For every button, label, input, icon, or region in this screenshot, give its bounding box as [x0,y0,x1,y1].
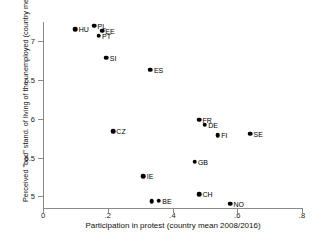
x-tick-label: .2 [98,211,118,220]
y-axis-title: Perceived "bad" stand. of living of the … [21,7,30,202]
data-point [228,201,233,206]
y-tick-mark [38,41,43,42]
x-tick-label: .4 [163,211,183,220]
data-point-label: IE [147,173,154,180]
data-point-label: FI [221,132,227,139]
data-point-label: SI [110,54,117,61]
data-point [148,67,153,72]
data-point-label: ES [154,66,163,73]
y-axis-line [43,22,44,209]
data-point [149,199,154,204]
x-tick-label: .8 [292,211,312,220]
y-tick-mark [38,158,43,159]
data-point-label: DE [208,121,218,128]
data-point-label: CZ [116,128,125,135]
data-point-label: PT [102,32,111,39]
data-point [104,55,109,60]
x-tick-label: .6 [227,211,247,220]
data-point [157,198,162,203]
data-point [192,160,197,165]
data-point [96,33,101,38]
scatter-chart: 55.566.57 0.2.4.6.8 HUPLEEPTSIESFRDECZFI… [0,0,323,243]
data-point-label: BE [162,197,171,204]
data-point-label: SE [254,130,263,137]
data-point [203,122,208,127]
data-point [111,129,116,134]
y-tick-mark [38,119,43,120]
data-point [248,131,253,136]
data-point-label: NO [234,200,245,207]
data-point-label: HU [79,26,89,33]
data-point [216,133,221,138]
x-axis-title: Participation in protest (country mean 2… [43,221,303,230]
data-point-label: GB [198,158,208,165]
data-point-label: CH [202,191,212,198]
data-point [197,192,202,197]
data-point [73,27,78,32]
data-point [141,174,146,179]
data-point [92,24,97,29]
y-tick-mark [38,196,43,197]
data-point [197,117,202,122]
x-tick-label: 0 [33,211,53,220]
y-tick-mark [38,80,43,81]
